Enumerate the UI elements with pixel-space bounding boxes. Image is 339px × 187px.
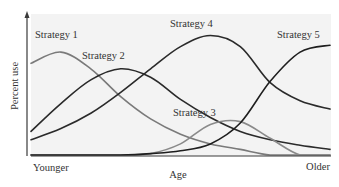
series-label-strategy-3: Strategy 3 — [173, 107, 216, 118]
y-axis-arrow-icon — [25, 11, 30, 18]
x-axis-label-younger: Younger — [33, 162, 69, 173]
strategy-use-chart: Percent use Younger Age Older Strategy 1… — [0, 0, 339, 187]
series-label-strategy-1: Strategy 1 — [35, 29, 78, 40]
y-axis-label: Percent use — [9, 62, 20, 110]
series-label-strategy-2: Strategy 2 — [82, 50, 125, 61]
x-axis-label-age: Age — [169, 169, 187, 180]
series-label-strategy-4: Strategy 4 — [170, 18, 214, 29]
series-label-strategy-5: Strategy 5 — [277, 29, 320, 40]
x-axis-label-older: Older — [306, 161, 330, 172]
